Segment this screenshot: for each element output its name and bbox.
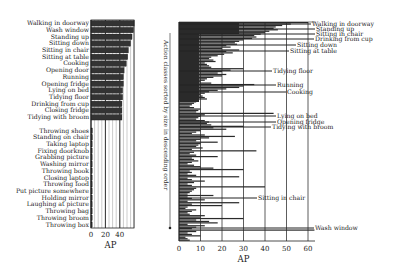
bar [179,140,196,141]
bar [179,215,205,216]
y-axis-label: Action classes sorted by size in descend… [162,39,170,190]
annotation-label: Sitting at table [290,47,337,55]
bar [179,160,198,161]
bar [179,137,209,138]
bar [179,238,188,239]
bar [179,219,196,220]
bar [179,189,194,190]
x-tick-label: 50 [282,245,291,253]
x-tick-label: 0 [89,231,93,239]
bar [179,159,194,160]
bar [179,224,188,225]
bar [179,162,192,163]
bar [91,61,126,67]
bar [179,169,244,170]
right-panel: 0102030405060APAction classes sorted by … [162,20,374,264]
annotation-label: Tidying floor [273,67,313,75]
left-panel: Walking in doorwayWash windowStanding up… [16,19,134,250]
bar [91,108,122,114]
x-tick-label: 20 [218,245,227,253]
bar [179,222,218,223]
bar [179,113,274,114]
bar [179,196,188,197]
bar [179,170,190,171]
bar [179,212,188,213]
bar [179,124,211,125]
bar [179,117,198,118]
bar [179,108,201,109]
bar [179,119,196,120]
bar [179,150,256,151]
bar [179,130,201,131]
x-axis-label: AP [237,254,250,264]
bar [179,209,196,210]
bar [179,123,207,124]
bar [179,191,192,192]
arrow-head-icon [169,227,172,230]
bar [179,149,192,150]
bar [179,129,226,130]
bar [179,176,239,177]
x-tick-label: 60 [304,245,313,253]
bar [179,225,205,226]
bar [179,152,194,153]
bar [179,185,192,186]
bar [179,188,196,189]
bar [179,156,218,157]
bar [91,94,123,100]
bar [179,175,196,176]
bar [179,232,188,233]
bar [179,153,190,154]
bar [179,163,188,164]
bar [179,235,201,236]
x-tick-label: 30 [239,245,248,253]
bar [91,68,124,74]
x-tick-label: 0 [177,245,181,253]
bar [179,182,194,183]
bar [179,120,205,121]
bar [91,115,122,121]
bar [91,21,134,27]
bar [179,139,201,140]
annotation-label: Sitting in chair [258,194,305,202]
bar [179,166,201,167]
bar [179,143,201,144]
bar [179,155,196,156]
bar [179,199,205,200]
bar [179,106,190,107]
bar [179,205,222,206]
bar [179,146,196,147]
bar [179,214,190,215]
bar [179,111,196,112]
bar [91,54,128,60]
bar [179,208,185,209]
bar [179,144,198,145]
bar [179,211,192,212]
bar [179,178,188,179]
annotation-label: Wash window [315,224,359,231]
bar [179,173,188,174]
bar [179,204,192,205]
bar [179,234,192,235]
bar [179,195,213,196]
annotation-label: Cooking [287,88,313,96]
bar [179,168,213,169]
bar [179,134,205,135]
bar [179,180,205,181]
bar [179,136,235,137]
x-tick-label: 40 [115,231,124,239]
x-tick-label: 20 [101,231,110,239]
bar [179,202,239,203]
bar [179,132,196,133]
bar [91,81,123,87]
bar [179,172,192,173]
bar [179,218,244,219]
bar [179,147,203,148]
bar [179,201,188,202]
annotation-label: Tidying with broom [272,123,334,131]
bar [179,237,185,238]
x-tick-label: 10 [196,245,205,253]
bar [179,193,188,194]
bar [91,34,132,40]
bar [91,27,133,33]
